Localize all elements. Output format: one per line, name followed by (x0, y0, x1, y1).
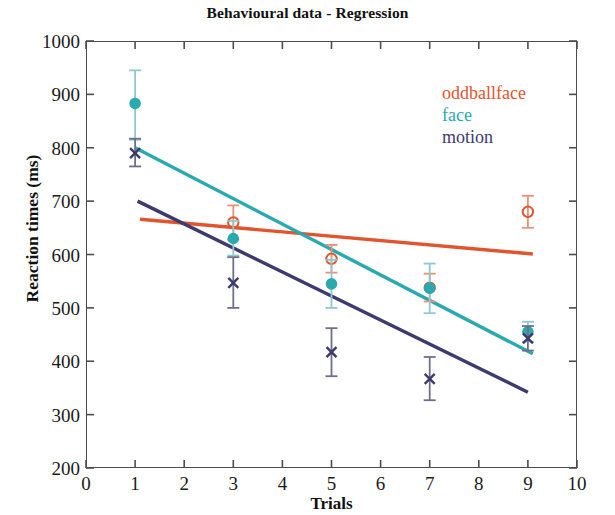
x-axis-label: Trials (86, 494, 577, 514)
x-tick-label: 8 (459, 474, 499, 493)
y-tick-label: 700 (6, 192, 80, 211)
x-tick-label: 5 (312, 474, 352, 493)
chart-figure: Behavioural data - Regression 1000900800… (0, 0, 615, 515)
legend-entry-oddballface: oddballface (442, 82, 592, 104)
chart-legend: oddballfacefacemotion (442, 82, 592, 148)
y-tick-label: 400 (6, 352, 80, 371)
y-tick-label: 500 (6, 298, 80, 317)
x-tick-label: 3 (213, 474, 253, 493)
x-tick-label: 10 (557, 474, 597, 493)
y-tick-label: 600 (6, 245, 80, 264)
x-tick-label: 6 (361, 474, 401, 493)
x-tick-label: 2 (164, 474, 204, 493)
y-tick-label: 800 (6, 138, 80, 157)
regression-line-oddballface (140, 219, 533, 254)
x-tick-label: 1 (115, 474, 155, 493)
legend-entry-face: face (442, 104, 592, 126)
y-tick-label: 1000 (6, 32, 80, 51)
y-tick-label: 300 (6, 405, 80, 424)
regression-line-face (135, 148, 533, 354)
x-tick-label: 9 (508, 474, 548, 493)
x-tick-label: 0 (66, 474, 106, 493)
chart-title: Behavioural data - Regression (0, 4, 615, 22)
y-tick-label: 900 (6, 85, 80, 104)
y-axis-label: Reaction times (ms) (22, 79, 43, 379)
regression-line-motion (138, 201, 528, 392)
x-tick-label: 7 (410, 474, 450, 493)
x-tick-label: 4 (262, 474, 302, 493)
legend-entry-motion: motion (442, 126, 592, 148)
